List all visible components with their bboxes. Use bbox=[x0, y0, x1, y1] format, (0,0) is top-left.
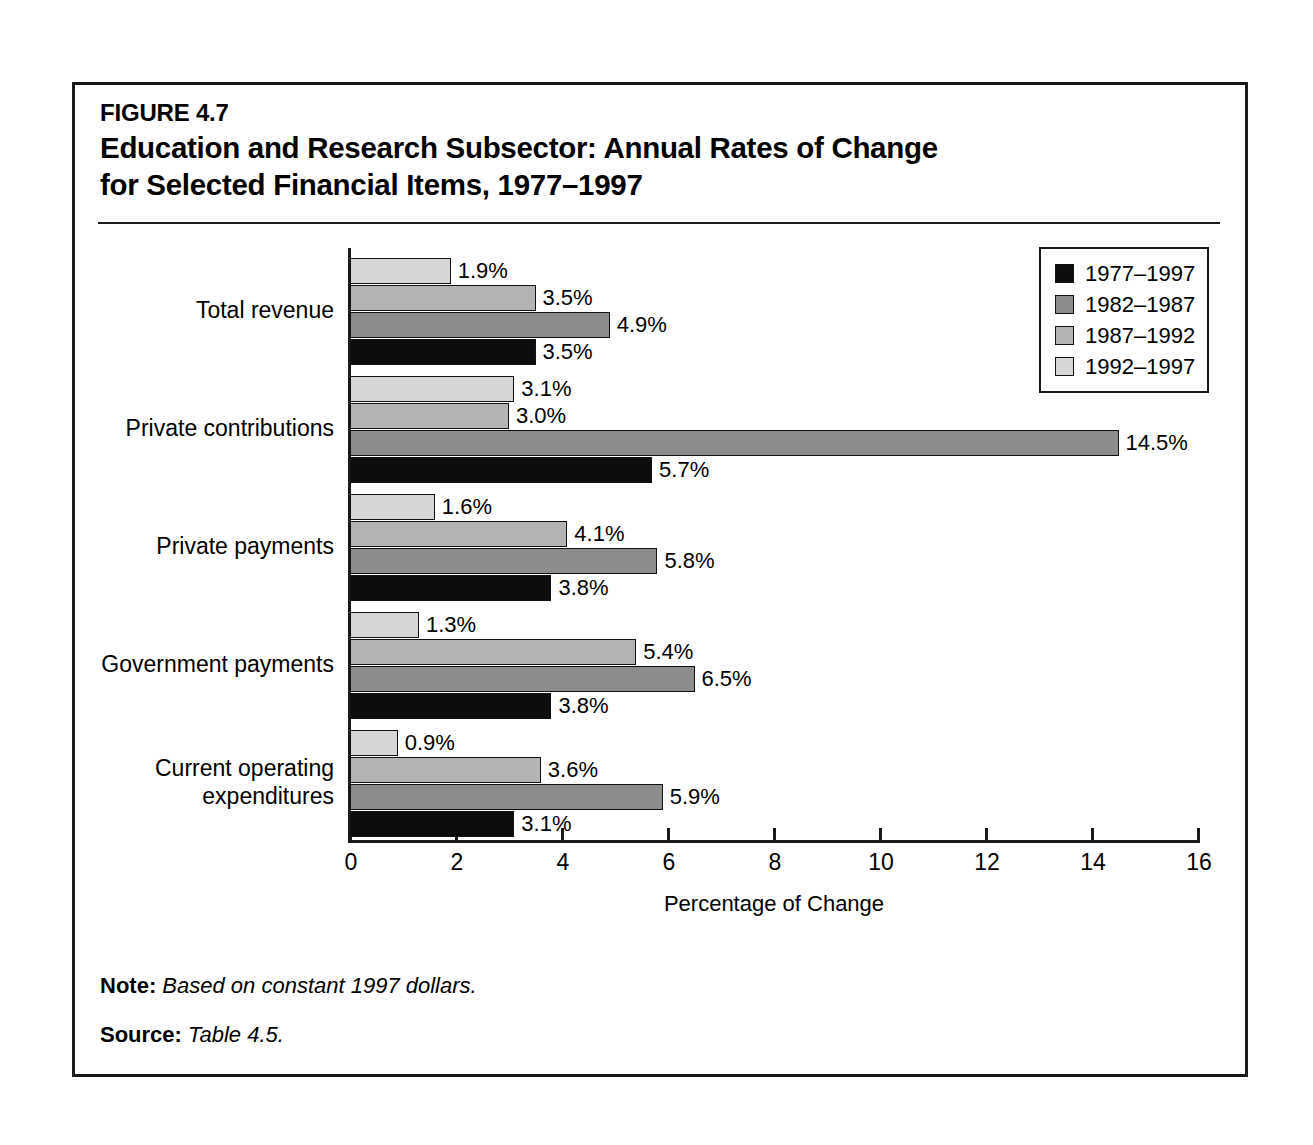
bar-row: 4.1% bbox=[350, 521, 1198, 547]
bar-row: 5.9% bbox=[350, 784, 1198, 810]
bar-row: 14.5% bbox=[350, 430, 1198, 456]
bar-value-label: 3.5% bbox=[536, 286, 593, 310]
bar-value-label: 6.5% bbox=[695, 667, 752, 691]
note-text: Based on constant 1997 dollars. bbox=[162, 973, 476, 998]
bar-row: 1.3% bbox=[350, 612, 1198, 638]
figure-page: FIGURE 4.7 Education and Research Subsec… bbox=[0, 0, 1313, 1145]
bar-value-label: 3.8% bbox=[551, 694, 608, 718]
bar[interactable] bbox=[350, 403, 509, 429]
bar[interactable] bbox=[350, 376, 514, 402]
bar-row: 3.8% bbox=[350, 575, 1198, 601]
bar-value-label: 14.5% bbox=[1119, 431, 1188, 455]
bar[interactable] bbox=[350, 339, 536, 365]
bar-row: 5.7% bbox=[350, 457, 1198, 483]
bar-value-label: 1.6% bbox=[435, 495, 492, 519]
figure-frame: FIGURE 4.7 Education and Research Subsec… bbox=[72, 82, 1248, 1077]
x-axis-tick-label: 0 bbox=[329, 849, 373, 876]
bar[interactable] bbox=[350, 312, 610, 338]
bar[interactable] bbox=[350, 521, 567, 547]
source-label: Source: bbox=[100, 1022, 182, 1047]
bar-value-label: 5.9% bbox=[663, 785, 720, 809]
bar-group: Private contributions3.1%3.0%14.5%5.7% bbox=[350, 376, 1198, 484]
bar-row: 0.9% bbox=[350, 730, 1198, 756]
category-label: Government payments bbox=[34, 650, 334, 678]
bar[interactable] bbox=[350, 693, 551, 719]
chart-area: 1977–19971982–19871987–19921992–1997 024… bbox=[75, 85, 1245, 1074]
bar-group: Current operating expenditures0.9%3.6%5.… bbox=[350, 730, 1198, 838]
x-axis-tick-label: 12 bbox=[965, 849, 1009, 876]
bar-group: Total revenue1.9%3.5%4.9%3.5% bbox=[350, 258, 1198, 366]
category-label: Private payments bbox=[34, 532, 334, 560]
x-axis-tick-label: 6 bbox=[647, 849, 691, 876]
bar-row: 3.6% bbox=[350, 757, 1198, 783]
bar-row: 6.5% bbox=[350, 666, 1198, 692]
source-text: Table 4.5. bbox=[188, 1022, 284, 1047]
bar[interactable] bbox=[350, 612, 419, 638]
bar-value-label: 3.8% bbox=[551, 576, 608, 600]
bar-value-label: 3.1% bbox=[514, 812, 571, 836]
bar-value-label: 1.9% bbox=[451, 259, 508, 283]
bar-row: 3.5% bbox=[350, 285, 1198, 311]
category-label: Total revenue bbox=[34, 296, 334, 324]
x-axis-tick-label: 10 bbox=[859, 849, 903, 876]
source-line: Source: Table 4.5. bbox=[100, 1022, 1200, 1048]
bar[interactable] bbox=[350, 639, 636, 665]
note-label: Note: bbox=[100, 973, 156, 998]
bar[interactable] bbox=[350, 666, 695, 692]
bar[interactable] bbox=[350, 730, 398, 756]
figure-footer: Note: Based on constant 1997 dollars. So… bbox=[100, 973, 1200, 1048]
bar-row: 3.0% bbox=[350, 403, 1198, 429]
bar-value-label: 3.0% bbox=[509, 404, 566, 428]
note-line: Note: Based on constant 1997 dollars. bbox=[100, 973, 1200, 999]
x-axis-tick-label: 8 bbox=[753, 849, 797, 876]
x-axis-tick-label: 14 bbox=[1071, 849, 1115, 876]
plot-region: 0246810121416 Total revenue1.9%3.5%4.9%3… bbox=[350, 248, 1198, 828]
bar-value-label: 5.4% bbox=[636, 640, 693, 664]
bar-row: 3.1% bbox=[350, 376, 1198, 402]
bar-row: 1.6% bbox=[350, 494, 1198, 520]
bar[interactable] bbox=[350, 258, 451, 284]
bar-row: 1.9% bbox=[350, 258, 1198, 284]
bar-row: 3.8% bbox=[350, 693, 1198, 719]
bar[interactable] bbox=[350, 811, 514, 837]
bar-row: 4.9% bbox=[350, 312, 1198, 338]
bar-value-label: 4.9% bbox=[610, 313, 667, 337]
bar-value-label: 4.1% bbox=[567, 522, 624, 546]
bar-group: Private payments1.6%4.1%5.8%3.8% bbox=[350, 494, 1198, 602]
bar-value-label: 3.6% bbox=[541, 758, 598, 782]
x-axis-tick-label: 16 bbox=[1177, 849, 1221, 876]
bar[interactable] bbox=[350, 430, 1119, 456]
bar-row: 3.1% bbox=[350, 811, 1198, 837]
bar[interactable] bbox=[350, 457, 652, 483]
bar-group: Government payments1.3%5.4%6.5%3.8% bbox=[350, 612, 1198, 720]
x-axis-title: Percentage of Change bbox=[350, 891, 1198, 917]
bar[interactable] bbox=[350, 285, 536, 311]
x-axis-tick-label: 2 bbox=[435, 849, 479, 876]
bar-row: 5.8% bbox=[350, 548, 1198, 574]
bar-value-label: 5.8% bbox=[657, 549, 714, 573]
x-axis-tick-label: 4 bbox=[541, 849, 585, 876]
category-label: Current operating expenditures bbox=[34, 754, 334, 810]
bar[interactable] bbox=[350, 784, 663, 810]
bar-value-label: 0.9% bbox=[398, 731, 455, 755]
bar[interactable] bbox=[350, 757, 541, 783]
bar-value-label: 3.5% bbox=[536, 340, 593, 364]
bar[interactable] bbox=[350, 575, 551, 601]
bar-value-label: 1.3% bbox=[419, 613, 476, 637]
bar[interactable] bbox=[350, 494, 435, 520]
bar-value-label: 5.7% bbox=[652, 458, 709, 482]
bar-row: 3.5% bbox=[350, 339, 1198, 365]
bar-row: 5.4% bbox=[350, 639, 1198, 665]
category-label: Private contributions bbox=[34, 414, 334, 442]
bar-value-label: 3.1% bbox=[514, 377, 571, 401]
bar[interactable] bbox=[350, 548, 657, 574]
